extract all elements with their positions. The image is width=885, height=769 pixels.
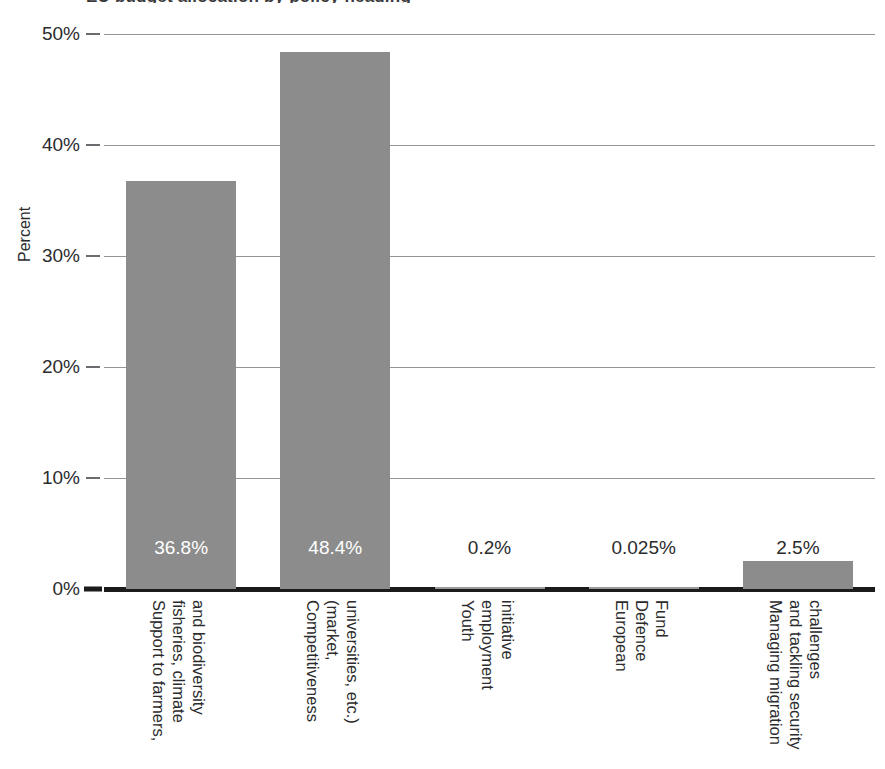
x-axis-category-line: Youth (458, 600, 478, 642)
gridline (104, 145, 875, 146)
x-axis-category-line: challenges (806, 600, 826, 679)
y-axis-tick-label: 40% (0, 134, 80, 156)
cropped-chart-title: EU budget allocation by policy heading (86, 0, 786, 3)
bar-chart-figure: EU budget allocation by policy heading P… (0, 0, 885, 769)
y-axis-tick-label: 50% (0, 23, 80, 45)
x-axis-category-line: and tackling security (786, 600, 806, 750)
x-axis-category-line: universities, etc.) (343, 600, 363, 724)
y-axis-tick-label: 10% (0, 467, 80, 489)
bar-value-label: 2.5% (776, 537, 819, 559)
y-axis-tick-mark (86, 33, 100, 35)
y-axis-tick-mark (86, 144, 100, 146)
y-axis-tick-mark (86, 255, 100, 257)
x-axis-category-line: fisheries, climate (169, 600, 189, 723)
gridline (104, 34, 875, 35)
y-axis-tick-mark (84, 587, 102, 592)
x-axis-category-line: Defence (632, 600, 652, 661)
x-axis-category-line: and biodiversity (189, 600, 209, 715)
y-axis-tick-mark (86, 477, 100, 479)
x-axis-category-line: employment (478, 600, 498, 690)
bar[interactable] (126, 181, 236, 589)
x-axis-category-line: European (612, 600, 632, 672)
bar[interactable] (743, 561, 853, 589)
x-axis-category-line: initiative (498, 600, 518, 660)
bar-value-label: 36.8% (154, 537, 208, 559)
plot-area (104, 34, 875, 589)
bar-value-label: 0.2% (468, 537, 511, 559)
y-axis-tick-label: 20% (0, 356, 80, 378)
y-axis-tick-mark (86, 366, 100, 368)
bar-value-label: 48.4% (308, 537, 362, 559)
bar[interactable] (435, 587, 545, 590)
bar[interactable] (280, 52, 390, 589)
x-axis-category-line: Competitiveness (303, 600, 323, 722)
x-axis-category-line: Fund (652, 600, 672, 638)
y-axis-tick-label: 30% (0, 245, 80, 267)
x-axis-category-line: Managing migration (766, 600, 786, 745)
bar-value-label: 0.025% (611, 537, 675, 559)
x-axis-category-line: (market, (323, 600, 343, 661)
x-axis-category-line: Support to farmers, (149, 600, 169, 741)
bar[interactable] (589, 587, 699, 590)
y-axis-tick-label: 0% (0, 578, 80, 600)
